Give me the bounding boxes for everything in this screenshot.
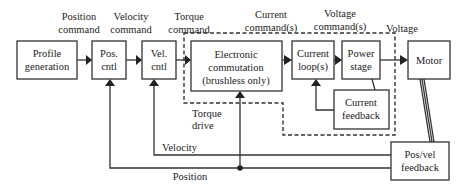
- electronic-commutation-block: Electronic commutation (brushless only): [191, 41, 282, 91]
- svg-text:loop(s): loop(s): [298, 61, 328, 73]
- svg-text:command(s): command(s): [245, 22, 298, 34]
- svg-text:Vel.: Vel.: [151, 48, 168, 59]
- torque-command-label: Torque command: [168, 11, 210, 35]
- svg-text:Current: Current: [345, 97, 377, 108]
- arrow-right-icon: [136, 55, 142, 65]
- voltage-commands-label: Voltage command(s): [314, 8, 367, 33]
- svg-text:cntl: cntl: [151, 61, 167, 72]
- position-controller-block: Pos. cntl: [92, 41, 126, 79]
- svg-text:Torque: Torque: [192, 108, 222, 119]
- svg-text:Position: Position: [62, 11, 97, 22]
- junction-dot: [237, 165, 243, 171]
- motor-block: Motor: [408, 41, 450, 79]
- velocity-controller-block: Vel. cntl: [142, 41, 176, 79]
- svg-text:Power: Power: [348, 48, 375, 59]
- current-feedback-block: Current feedback: [334, 90, 389, 129]
- svg-text:Velocity: Velocity: [114, 11, 150, 22]
- svg-text:Torque: Torque: [174, 11, 204, 22]
- position-command-label: Position command: [58, 11, 100, 35]
- svg-text:commutation: commutation: [208, 62, 264, 73]
- arrow-right-icon: [86, 55, 92, 65]
- svg-text:Profile: Profile: [33, 48, 62, 59]
- arrow-up-icon: [311, 79, 321, 86]
- arrow-right-icon: [185, 55, 191, 65]
- svg-text:command: command: [110, 24, 152, 35]
- torque-drive-label: Torque drive: [192, 108, 222, 131]
- servo-block-diagram: Position command Velocity command Torque…: [0, 0, 459, 190]
- arrow-up-icon: [105, 79, 115, 86]
- svg-text:generation: generation: [25, 61, 70, 72]
- velocity-command-label: Velocity command: [110, 11, 152, 35]
- svg-text:Pos/vel: Pos/vel: [405, 149, 436, 160]
- svg-text:Motor: Motor: [416, 55, 443, 66]
- svg-text:stage: stage: [350, 61, 372, 72]
- svg-text:command: command: [168, 24, 210, 35]
- svg-text:command: command: [58, 24, 100, 35]
- svg-text:feedback: feedback: [401, 162, 440, 173]
- svg-text:command(s): command(s): [314, 21, 367, 33]
- profile-generation-block: Profile generation: [17, 41, 77, 79]
- arrow-right-icon: [400, 55, 408, 65]
- svg-text:cntl: cntl: [101, 61, 117, 72]
- arrow-up-icon: [235, 91, 245, 98]
- power-stage-block: Power stage: [342, 41, 380, 79]
- position-label: Position: [173, 171, 208, 182]
- arrow-up-icon: [149, 79, 159, 86]
- svg-text:Voltage: Voltage: [324, 8, 356, 19]
- svg-text:Electronic: Electronic: [214, 49, 257, 60]
- svg-text:feedback: feedback: [342, 110, 381, 121]
- arrow-right-icon: [335, 55, 342, 65]
- svg-text:Current: Current: [297, 48, 329, 59]
- velocity-label: Velocity: [162, 142, 198, 153]
- current-commands-label: Current command(s): [245, 9, 298, 34]
- voltage-label: Voltage: [386, 23, 418, 34]
- posvel-feedback-block: Pos/vel feedback: [391, 142, 449, 180]
- svg-text:Current: Current: [255, 9, 287, 20]
- current-loop-block: Current loop(s): [292, 41, 334, 79]
- svg-text:(brushless only): (brushless only): [202, 75, 270, 87]
- svg-text:drive: drive: [192, 120, 214, 131]
- svg-text:Pos.: Pos.: [100, 48, 118, 59]
- arrow-right-icon: [284, 55, 292, 65]
- motor-encoder-link: [420, 79, 434, 142]
